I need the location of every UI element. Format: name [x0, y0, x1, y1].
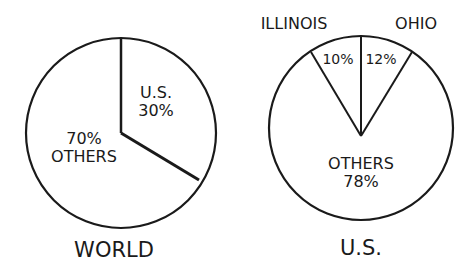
world-others-label: 70% OTHERS: [51, 130, 117, 167]
us-others-name: OTHERS: [328, 155, 394, 173]
us-illinois-name: ILLINOIS: [261, 15, 328, 33]
world-others-pct: 70%: [51, 130, 117, 148]
us-pie: [269, 36, 453, 220]
us-title: U.S.: [340, 236, 382, 260]
us-ohio-name: OHIO: [395, 15, 437, 33]
world-title: WORLD: [74, 238, 154, 262]
us-ohio-pct: 12%: [365, 51, 396, 67]
us-illinois-pct: 10%: [322, 51, 353, 67]
world-us-label: U.S. 30%: [138, 84, 174, 121]
us-others-label: OTHERS 78%: [328, 155, 394, 192]
world-others-name: OTHERS: [51, 148, 117, 166]
world-us-pct: 30%: [138, 102, 174, 120]
us-others-pct: 78%: [328, 173, 394, 191]
world-us-name: U.S.: [138, 84, 174, 102]
